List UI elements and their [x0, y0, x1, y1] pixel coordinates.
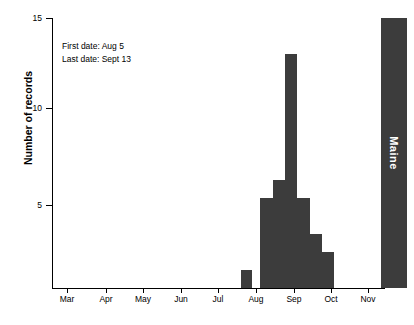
x-tick-label: Oct [311, 295, 351, 304]
x-tick-label: Mar [47, 295, 87, 304]
bar [285, 54, 297, 288]
bar [322, 252, 334, 288]
y-tick-label: 5 [0, 201, 42, 210]
x-tick-mark [218, 288, 219, 293]
x-tick-mark [106, 288, 107, 293]
bar-series [52, 18, 385, 288]
x-tick-label: Apr [86, 295, 126, 304]
x-tick-mark [331, 288, 332, 293]
chart-figure: Number of records 15105 MarAprMayJunJulA… [0, 0, 414, 325]
bar [310, 234, 322, 288]
x-tick-label: Nov [348, 295, 388, 304]
x-tick-label: Sep [274, 295, 314, 304]
x-tick-mark [67, 288, 68, 293]
bar [297, 198, 310, 288]
panel-state-label: Maine [381, 18, 407, 288]
x-tick-mark [368, 288, 369, 293]
panel-state-band: Maine [381, 18, 407, 288]
y-tick-label: 15 [0, 14, 42, 23]
x-tick-mark [256, 288, 257, 293]
bar [241, 270, 252, 288]
y-axis-title: Number of records [22, 38, 34, 198]
bar [260, 198, 273, 288]
bar [273, 180, 285, 288]
x-tick-label: Jul [198, 295, 238, 304]
x-tick-label: Jun [161, 295, 201, 304]
x-tick-label: May [123, 295, 163, 304]
x-tick-mark [143, 288, 144, 293]
x-tick-label: Aug [236, 295, 276, 304]
y-tick-label: 10 [0, 104, 42, 113]
x-tick-mark [294, 288, 295, 293]
x-tick-mark [181, 288, 182, 293]
